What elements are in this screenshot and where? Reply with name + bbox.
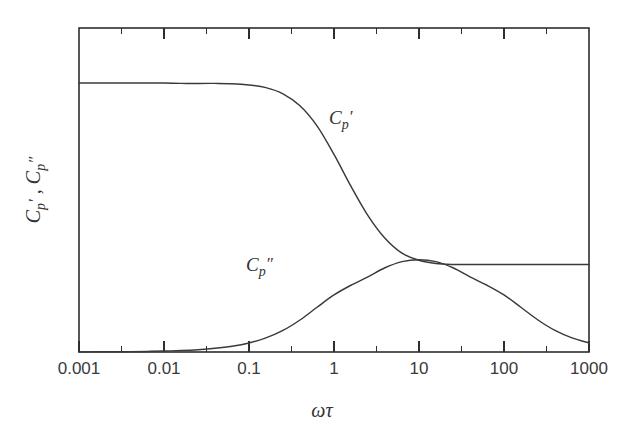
x-tick-label: 10	[410, 359, 429, 378]
annotation-real-prime: ′	[349, 107, 353, 126]
y-axis-subscript-2: p	[33, 164, 48, 172]
x-tick-label: 0.01	[147, 359, 180, 378]
x-tick-label: 100	[490, 359, 518, 378]
y-axis-separator: ,	[22, 184, 44, 199]
annotation-real-subscript: p	[341, 117, 349, 132]
annotation-imag-prime: ″	[266, 254, 274, 273]
y-axis-symbol-2: C	[22, 170, 44, 184]
annotation-imag-symbol: C	[246, 254, 259, 275]
x-axis-title: ωτ	[311, 399, 333, 421]
debye-relaxation-plot: 0.001 0.01 0.1 1 10 100 1000 ωτ Cp′ , Cp…	[0, 0, 644, 443]
x-tick-label: 1000	[570, 359, 608, 378]
x-tick-label: 0.1	[237, 359, 261, 378]
annotation-imag-subscript: p	[258, 264, 266, 279]
x-tick-label: 0.001	[58, 359, 101, 378]
annotation-real-symbol: C	[329, 107, 342, 128]
y-axis-subscript-1: p	[33, 203, 48, 211]
y-axis-symbol-1: C	[22, 209, 44, 223]
x-tick-label: 1	[329, 359, 338, 378]
chart-figure: 0.001 0.01 0.1 1 10 100 1000 ωτ Cp′ , Cp…	[0, 0, 644, 443]
y-axis-prime-2: ″	[25, 156, 44, 164]
